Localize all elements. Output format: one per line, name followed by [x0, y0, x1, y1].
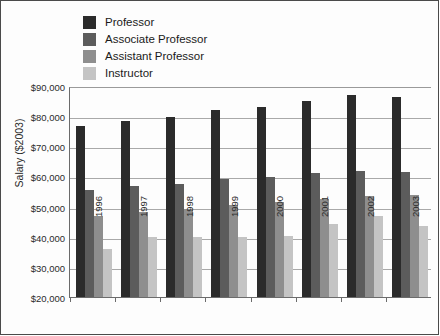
bar [229, 205, 238, 298]
x-axis-line [70, 297, 431, 298]
x-axis-tick-label: 1996 [93, 196, 104, 217]
legend-item-instructor: Instructor [83, 65, 207, 82]
bar-group [160, 88, 205, 298]
bar [166, 117, 175, 298]
y-axis-tick-label: $30,000 [31, 262, 65, 273]
bar [257, 107, 266, 298]
bar-group [296, 88, 341, 298]
bar-group [115, 88, 160, 298]
x-axis-tick-mark [160, 298, 161, 302]
x-axis-tick-label: 1997 [138, 196, 149, 217]
y-axis-tick-label: $50,000 [31, 202, 65, 213]
bar [401, 172, 410, 298]
x-axis-tick-mark [70, 298, 71, 302]
bar [193, 237, 202, 298]
bar [148, 237, 157, 298]
legend-item-associate-professor: Associate Professor [83, 31, 207, 48]
bar [374, 216, 383, 298]
bar [184, 209, 193, 298]
x-axis-tick-label: 2000 [274, 196, 285, 217]
bar-group [341, 88, 386, 298]
y-axis-tick-label: $40,000 [31, 232, 65, 243]
bar [211, 110, 220, 298]
bar [175, 184, 184, 298]
legend-item-assistant-professor: Assistant Professor [83, 48, 207, 65]
legend-swatch-assistant-professor [83, 50, 96, 63]
x-axis-tick-mark [386, 298, 387, 302]
legend-label-instructor: Instructor [105, 67, 153, 80]
x-axis-tick-label: 1999 [229, 196, 240, 217]
y-axis-tick-label: $70,000 [31, 142, 65, 153]
x-axis-tick-label: 1998 [184, 196, 195, 217]
bar-group [205, 88, 250, 298]
chart-legend: Professor Associate Professor Assistant … [83, 14, 207, 82]
bar-groups [70, 88, 431, 298]
bar [103, 249, 112, 298]
bar [139, 212, 148, 298]
legend-label-assistant-professor: Assistant Professor [105, 50, 204, 63]
legend-swatch-professor [83, 16, 96, 29]
bar [347, 95, 356, 298]
bar-group [70, 88, 115, 298]
bar [356, 171, 365, 299]
x-axis-tick-mark [251, 298, 252, 302]
bar [121, 121, 130, 298]
x-axis-tick-mark [341, 298, 342, 302]
x-axis-tick-mark [205, 298, 206, 302]
y-axis-tick-label: $80,000 [31, 112, 65, 123]
x-axis-tick-label: 2003 [410, 196, 421, 217]
bar [311, 173, 320, 298]
bar [238, 237, 247, 298]
x-axis-tick-mark [115, 298, 116, 302]
chart-frame: Professor Associate Professor Assistant … [0, 0, 439, 335]
bar [392, 97, 401, 298]
y-axis-tick-labels: $90,000$80,000$70,000$60,000$50,000$40,0… [1, 87, 65, 298]
bar [76, 126, 85, 298]
bar-group [251, 88, 296, 298]
x-axis-tick-label: 2001 [319, 196, 330, 217]
legend-label-professor: Professor [105, 16, 154, 29]
bar [329, 224, 338, 298]
y-axis-tick-label: $90,000 [31, 82, 65, 93]
legend-item-professor: Professor [83, 14, 207, 31]
y-axis-tick-label: $20,000 [31, 293, 65, 304]
bar [302, 101, 311, 298]
legend-swatch-instructor [83, 67, 96, 80]
x-axis-tick-label: 2002 [365, 196, 376, 217]
plot-area [69, 87, 431, 298]
bar [94, 216, 103, 298]
x-axis-tick-mark [296, 298, 297, 302]
bar [284, 236, 293, 298]
legend-swatch-associate-professor [83, 33, 96, 46]
bar [419, 226, 428, 298]
bar-group [386, 88, 431, 298]
y-axis-tick-label: $60,000 [31, 172, 65, 183]
legend-label-associate-professor: Associate Professor [105, 33, 207, 46]
